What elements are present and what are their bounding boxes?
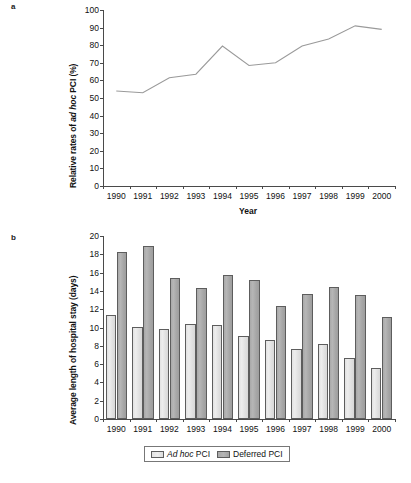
chart-b-bar-2000-deferred — [382, 317, 393, 419]
chart-b-x-tickmark — [103, 419, 104, 422]
chart-b-x-tick-1994: 1994 — [207, 425, 237, 434]
chart-a-x-tickmark — [395, 186, 396, 189]
chart-a-line-series — [103, 10, 395, 187]
chart-b-bar-1999-adhoc — [344, 358, 355, 419]
chart-a-y-tick-20: 20 — [77, 147, 99, 156]
chart-a-x-tick-1999: 1999 — [340, 192, 370, 201]
chart-a-x-tick-1993: 1993 — [181, 192, 211, 201]
chart-b-bar-1994-deferred — [223, 275, 234, 419]
chart-b-bar-2000-adhoc — [371, 368, 382, 419]
legend-label-adhoc-pci: Ad hoc PCI — [167, 449, 210, 459]
chart-b-bar-1996-deferred — [276, 306, 287, 419]
chart-b-y-tick-0: 0 — [77, 415, 99, 424]
legend-swatch-deferred-pci — [217, 451, 230, 458]
chart-a-x-tick-1995: 1995 — [234, 192, 264, 201]
chart-b-y-tick-6: 6 — [77, 360, 99, 369]
chart-b-bar-1990-adhoc — [106, 315, 117, 419]
chart-b-bar-1996-adhoc — [265, 340, 276, 419]
chart-b-x-tickmark — [262, 419, 263, 422]
legend-swatch-adhoc-pci — [151, 451, 164, 458]
chart-b-bar-1993-adhoc — [185, 324, 196, 419]
chart-b-x-tickmark — [342, 419, 343, 422]
chart-a-x-tick-1997: 1997 — [287, 192, 317, 201]
chart-a-y-tick-80: 80 — [77, 41, 99, 50]
chart-b-x-tickmark — [209, 419, 210, 422]
bar-chart-panel-b: Average length of hospital stay (days) 0… — [0, 228, 411, 483]
chart-a-x-tick-1996: 1996 — [261, 192, 291, 201]
chart-b-y-axis-line — [103, 236, 104, 419]
chart-a-y-tick-90: 90 — [77, 24, 99, 33]
chart-b-y-tick-20: 20 — [77, 232, 99, 241]
chart-b-x-tick-1992: 1992 — [154, 425, 184, 434]
chart-b-bar-1995-deferred — [249, 280, 260, 419]
chart-b-bar-1998-adhoc — [318, 344, 329, 419]
chart-b-x-tick-1996: 1996 — [261, 425, 291, 434]
chart-a-y-tick-30: 30 — [77, 129, 99, 138]
legend-label-deferred-pci: Deferred PCI — [233, 449, 283, 459]
chart-b-bar-1991-adhoc — [132, 327, 143, 419]
chart-b-bar-1993-deferred — [196, 288, 207, 419]
chart-a-y-tick-100: 100 — [77, 6, 99, 15]
chart-b-bar-1995-adhoc — [238, 336, 249, 419]
chart-b-x-axis-line — [103, 419, 395, 420]
chart-b-x-tickmark — [315, 419, 316, 422]
chart-b-x-tickmark — [368, 419, 369, 422]
chart-b-x-tickmark — [130, 419, 131, 422]
chart-a-y-tick-10: 10 — [77, 164, 99, 173]
chart-b-x-tickmark — [395, 419, 396, 422]
chart-b-bar-1997-deferred — [302, 294, 313, 419]
chart-b-bar-1990-deferred — [117, 252, 128, 419]
chart-a-y-tick-0: 0 — [77, 182, 99, 191]
chart-b-y-tick-8: 8 — [77, 342, 99, 351]
chart-b-x-tick-2000: 2000 — [367, 425, 397, 434]
chart-b-y-tick-18: 18 — [77, 250, 99, 259]
chart-b-bar-1999-deferred — [355, 295, 366, 419]
chart-b-x-tick-1990: 1990 — [101, 425, 131, 434]
chart-b-x-tickmark — [289, 419, 290, 422]
chart-a-x-axis-label: Year — [183, 206, 313, 216]
chart-b-bar-1992-deferred — [170, 278, 181, 419]
legend-item-deferred-pci: Deferred PCI — [217, 449, 283, 459]
chart-b-y-tick-14: 14 — [77, 287, 99, 296]
chart-b-bar-1992-adhoc — [159, 329, 170, 419]
chart-a-x-tick-2000: 2000 — [367, 192, 397, 201]
chart-b-x-tick-1993: 1993 — [181, 425, 211, 434]
line-chart-panel-a: Relative rates of ad hoc PCI (%) 0102030… — [0, 0, 411, 228]
chart-a-x-tick-1998: 1998 — [314, 192, 344, 201]
chart-a-series-line — [116, 26, 381, 93]
chart-b-y-tick-16: 16 — [77, 269, 99, 278]
chart-b-bar-1997-adhoc — [291, 349, 302, 419]
chart-b-bar-1998-deferred — [329, 287, 340, 419]
chart-b-y-tick-2: 2 — [77, 397, 99, 406]
chart-b-y-tick-10: 10 — [77, 324, 99, 333]
legend-item-adhoc-pci: Ad hoc PCI — [151, 449, 210, 459]
chart-a-y-tick-60: 60 — [77, 76, 99, 85]
chart-a-y-tick-50: 50 — [77, 94, 99, 103]
chart-a-x-tick-1991: 1991 — [128, 192, 158, 201]
chart-b-bar-1994-adhoc — [212, 325, 223, 419]
chart-b-x-tick-1995: 1995 — [234, 425, 264, 434]
chart-a-x-tick-1990: 1990 — [101, 192, 131, 201]
chart-b-x-tick-1997: 1997 — [287, 425, 317, 434]
chart-a-x-tick-1994: 1994 — [207, 192, 237, 201]
chart-b-y-tick-4: 4 — [77, 378, 99, 387]
chart-b-x-tickmark — [183, 419, 184, 422]
chart-b-x-tick-1999: 1999 — [340, 425, 370, 434]
chart-a-y-tick-70: 70 — [77, 59, 99, 68]
chart-b-x-tickmark — [156, 419, 157, 422]
chart-b-legend: Ad hoc PCIDeferred PCI — [144, 446, 290, 462]
chart-a-x-tick-1992: 1992 — [154, 192, 184, 201]
chart-b-x-tickmark — [236, 419, 237, 422]
chart-b-x-tick-1991: 1991 — [128, 425, 158, 434]
chart-b-bar-1991-deferred — [143, 246, 154, 419]
chart-b-y-tick-12: 12 — [77, 305, 99, 314]
chart-a-y-tick-40: 40 — [77, 112, 99, 121]
chart-b-x-tick-1998: 1998 — [314, 425, 344, 434]
